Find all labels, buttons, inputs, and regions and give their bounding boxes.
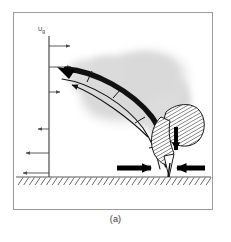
figure-caption: (a) (0, 214, 231, 224)
velocity-profile (23, 36, 71, 177)
figure-canvas (14, 13, 212, 209)
ground-hatching (18, 178, 211, 186)
ground (16, 177, 211, 185)
figure-frame: Ug (13, 12, 213, 210)
figure-root: Ug (a) (0, 0, 231, 242)
velocity-axis-label: Ug (38, 26, 45, 34)
